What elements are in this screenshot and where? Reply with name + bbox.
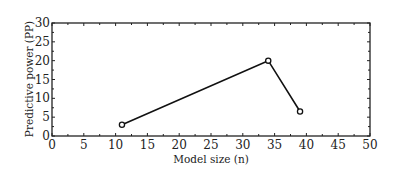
x-tick-label: 35 [267,138,282,152]
y-tick-label: 15 [35,73,50,87]
series-line [122,61,300,125]
x-tick-label: 25 [203,138,218,152]
y-tick-label: 30 [35,16,50,30]
plot-frame [52,23,370,136]
line-chart: 05101520253035404550051015202530 Model s… [0,0,404,179]
y-tick-label: 25 [35,35,50,49]
x-tick-label: 15 [140,138,155,152]
x-tick-label: 20 [172,138,187,152]
y-tick-label: 5 [42,110,50,124]
x-axis-label: Model size (n) [173,153,249,165]
x-tick-label: 50 [362,138,377,152]
y-tick-label: 20 [35,54,50,68]
data-point-marker [297,109,302,114]
x-tick-label: 40 [299,138,314,152]
chart-canvas: 05101520253035404550051015202530 Model s… [0,0,404,179]
data-point-marker [266,58,271,63]
x-tick-label: 10 [108,138,123,152]
axis-ticks [52,23,370,136]
y-tick-label: 10 [35,91,50,105]
tick-labels: 05101520253035404550051015202530 [35,16,378,152]
data-series [119,58,302,127]
data-point-marker [119,122,124,127]
y-axis-label: Predictive power (PP) [23,21,35,137]
y-tick-label: 0 [42,129,50,143]
x-tick-label: 45 [331,138,346,152]
x-tick-label: 5 [80,138,88,152]
x-tick-label: 30 [235,138,250,152]
